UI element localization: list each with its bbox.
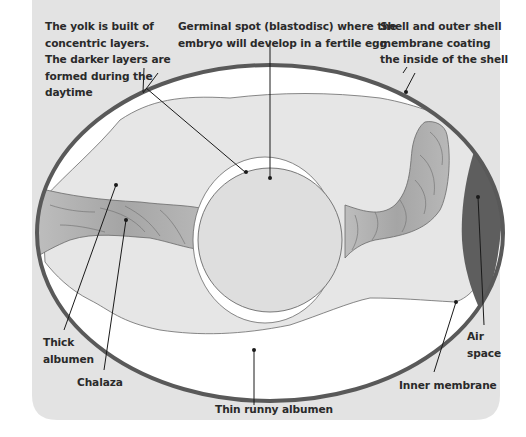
label-inner-membrane: Inner membrane <box>399 377 497 394</box>
yolk <box>198 168 342 312</box>
yolk-layers-pointer-dot <box>244 170 248 174</box>
label-germinal-spot: Germinal spot (blastodisc) where the emb… <box>178 18 397 51</box>
air-space-dot <box>476 195 480 199</box>
label-chalaza: Chalaza <box>77 374 123 391</box>
chalaza-dot <box>124 218 128 222</box>
thick-albumen-dot <box>114 183 118 187</box>
label-shell: Shell and outer shell membrane coating t… <box>380 18 508 68</box>
label-yolk-layers: The yolk is built of concentric layers. … <box>45 18 171 101</box>
label-thick-albumen: Thick albumen <box>43 334 94 367</box>
label-thin-albumen: Thin runny albumen <box>215 401 333 418</box>
shell-pointer-dot <box>404 90 408 94</box>
germinal-spot-dot <box>268 176 272 180</box>
label-air-space: Air space <box>467 328 501 361</box>
inner-membrane-dot <box>454 300 458 304</box>
thin-albumen-dot <box>252 348 256 352</box>
